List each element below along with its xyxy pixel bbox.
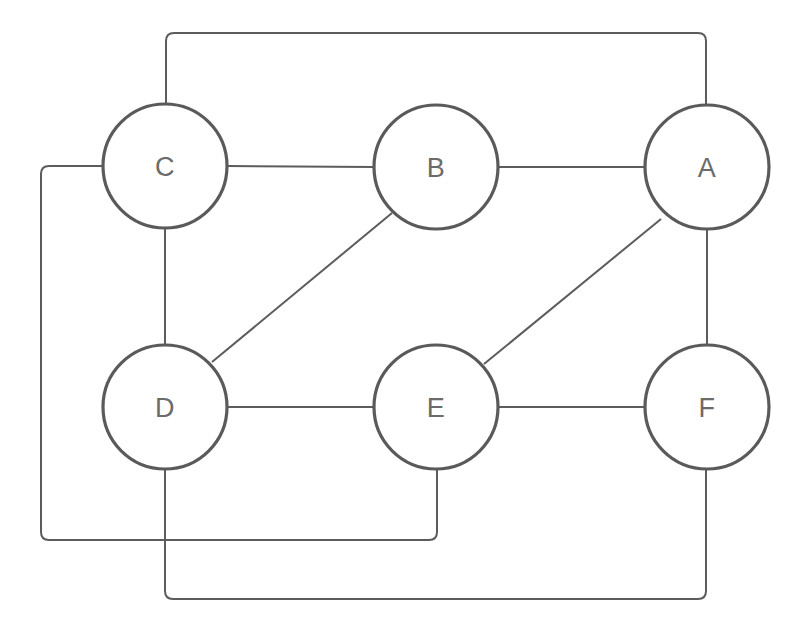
edge-d-f bbox=[165, 469, 706, 599]
node-d-label: D bbox=[155, 393, 175, 423]
edge-c-b bbox=[227, 166, 374, 167]
diagram-canvas: A B C D E F bbox=[0, 0, 803, 626]
node-d[interactable]: D bbox=[103, 345, 227, 469]
edge-e-a bbox=[484, 219, 661, 364]
node-b[interactable]: B bbox=[374, 105, 498, 229]
node-a[interactable]: A bbox=[645, 105, 769, 229]
node-a-label: A bbox=[698, 153, 717, 183]
node-layer: A B C D E F bbox=[103, 104, 769, 469]
node-e[interactable]: E bbox=[374, 345, 498, 469]
node-c-label: C bbox=[155, 152, 175, 182]
edge-c-e bbox=[41, 166, 437, 540]
node-c[interactable]: C bbox=[103, 104, 227, 228]
node-f[interactable]: F bbox=[645, 345, 769, 469]
node-f-label: F bbox=[699, 393, 716, 423]
graph-diagram: A B C D E F bbox=[0, 0, 803, 626]
node-e-label: E bbox=[427, 393, 446, 423]
node-b-label: B bbox=[427, 153, 446, 183]
edge-d-b bbox=[212, 213, 392, 362]
edge-c-a bbox=[166, 33, 706, 105]
